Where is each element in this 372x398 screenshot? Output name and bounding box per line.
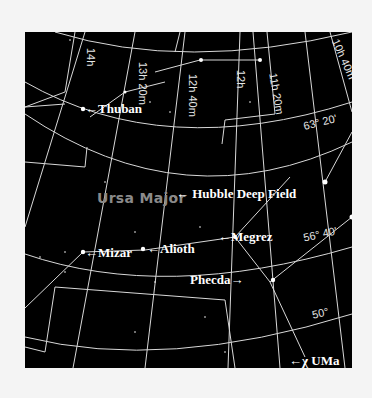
star-chart: 14h 13h 20m 12h 40m 12h 11h 20m 10h 40m … bbox=[25, 32, 352, 368]
arrow-right-icon: → bbox=[230, 272, 243, 287]
arrow-left-icon: ← bbox=[85, 101, 98, 116]
star-dubhe bbox=[323, 180, 328, 185]
label-alioth: ←Alioth bbox=[147, 241, 195, 257]
label-phecda: Phecda→ bbox=[190, 272, 243, 288]
ra-label-14h: 14h bbox=[85, 48, 97, 66]
star-alioth bbox=[141, 247, 145, 251]
arrow-left-icon: ← bbox=[218, 229, 231, 244]
label-chi-uma: ←χ UMa bbox=[289, 353, 339, 368]
ra-label-12h: 12h bbox=[235, 70, 247, 88]
label-megrez: ←Megrez bbox=[218, 229, 273, 245]
ra-label-13h20m: 13h 20m bbox=[137, 62, 149, 105]
label-mizar: ←Mizar bbox=[85, 245, 132, 261]
dec-line-50 bbox=[25, 314, 352, 350]
arrow-left-icon: ← bbox=[85, 245, 98, 260]
star-phecda bbox=[271, 278, 275, 282]
label-hubble-deep-field: ← Hubble Deep Field bbox=[176, 186, 296, 202]
arrow-left-icon: ← bbox=[147, 241, 160, 256]
ra-label-12h40m: 12h 40m bbox=[187, 74, 199, 117]
constellation-label: Ursa Major bbox=[97, 190, 186, 206]
arrow-left-icon: ← bbox=[176, 186, 189, 201]
arrow-left-icon: ← bbox=[289, 353, 302, 368]
label-thuban: ←Thuban bbox=[85, 101, 142, 117]
